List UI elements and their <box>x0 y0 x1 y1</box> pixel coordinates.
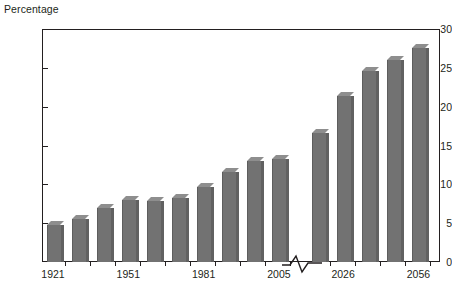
bar-chart: Percentage 051015202530 1921195119812005… <box>0 0 452 298</box>
x-axis-tick-mark <box>405 262 406 266</box>
bar-front-face <box>247 161 261 262</box>
bar <box>97 204 114 262</box>
bar <box>172 194 189 262</box>
x-axis-tick-mark <box>380 262 381 266</box>
y-axis-tick-label: 30 <box>418 23 452 35</box>
x-axis-tick-mark <box>190 262 191 266</box>
y-axis-tick-mark <box>43 146 48 147</box>
x-axis-tick-label: 2056 <box>407 268 430 280</box>
bar <box>47 221 64 262</box>
x-axis-tick-mark <box>165 262 166 266</box>
x-axis-tick-mark <box>115 262 116 266</box>
x-axis-tick-mark <box>265 262 266 266</box>
x-axis-tick-mark <box>290 262 291 266</box>
y-axis-tick-mark <box>43 107 48 108</box>
x-axis-tick-mark <box>240 262 241 266</box>
bar-front-face <box>147 201 161 262</box>
y-axis-title: Percentage <box>4 3 59 15</box>
bar-front-face <box>312 133 326 262</box>
bar <box>197 183 214 262</box>
x-axis-tick-mark <box>355 262 356 266</box>
x-axis-tick-label: 1951 <box>117 268 140 280</box>
bar-front-face <box>222 172 236 262</box>
x-axis-tick-mark <box>330 262 331 266</box>
x-axis-tick-mark <box>90 262 91 266</box>
x-axis-tick-mark <box>140 262 141 266</box>
y-axis-tick-mark <box>43 184 48 185</box>
bar-front-face <box>172 198 186 262</box>
bar <box>272 155 289 262</box>
bar <box>362 67 379 262</box>
bar-front-face <box>272 159 286 262</box>
bar <box>72 215 89 262</box>
bar-front-face <box>412 48 426 262</box>
bar <box>312 129 329 262</box>
bar <box>222 168 239 262</box>
x-axis-tick-label: 1921 <box>41 268 64 280</box>
bar-front-face <box>97 208 111 262</box>
bar <box>412 44 429 262</box>
bar-front-face <box>72 219 86 262</box>
bar <box>147 197 164 262</box>
bar <box>387 56 404 262</box>
x-axis-tick-mark <box>215 262 216 266</box>
y-axis-tick-mark <box>43 68 48 69</box>
bar-front-face <box>197 187 211 262</box>
x-axis-tick-label: 2005 <box>267 268 290 280</box>
bar-front-face <box>362 71 376 262</box>
bar-front-face <box>47 225 61 262</box>
bar <box>247 157 264 262</box>
bar-front-face <box>122 200 136 262</box>
x-axis-tick-mark <box>65 262 66 266</box>
bar-front-face <box>387 60 401 262</box>
x-axis-tick-mark <box>430 262 431 266</box>
x-axis-tick-label: 1981 <box>192 268 215 280</box>
bar <box>337 92 354 262</box>
x-axis-tick-label: 2026 <box>331 268 354 280</box>
bar-top-face <box>72 215 89 219</box>
bar <box>122 196 139 262</box>
bar-front-face <box>337 96 351 262</box>
